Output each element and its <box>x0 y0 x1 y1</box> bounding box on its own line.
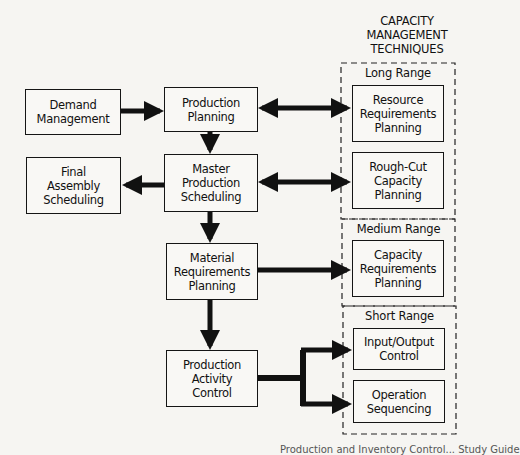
box-final-assembly-scheduling: Final Assembly Scheduling <box>26 157 121 214</box>
capacity-techniques-heading: CAPACITY MANAGEMENT TECHNIQUES <box>340 14 474 56</box>
box-label: Rough-Cut Capacity Planning <box>369 160 427 202</box>
label-short-range: Short Range <box>343 309 456 323</box>
box-production-planning: Production Planning <box>164 87 258 132</box>
box-production-activity-control: Production Activity Control <box>166 350 258 407</box>
box-resource-requirements-planning: Resource Requirements Planning <box>352 85 444 142</box>
box-operation-sequencing: Operation Sequencing <box>353 380 445 423</box>
box-label: Material Requirements Planning <box>174 251 250 293</box>
box-label: Production Activity Control <box>183 358 241 400</box>
label-long-range: Long Range <box>341 66 455 80</box>
box-label: Input/Output Control <box>364 335 434 363</box>
box-demand-management: Demand Management <box>25 89 121 135</box>
figure-caption-clipped: Production and Inventory Control... Stud… <box>280 444 480 455</box>
box-label: Capacity Requirements Planning <box>360 248 436 290</box>
box-label: Demand Management <box>37 98 110 126</box>
box-label: Operation Sequencing <box>367 388 431 416</box>
box-label: Production Planning <box>182 96 240 124</box>
box-master-production-scheduling: Master Production Scheduling <box>164 154 258 212</box>
box-label: Final Assembly Scheduling <box>43 165 104 207</box>
box-label: Resource Requirements Planning <box>360 93 436 135</box>
box-rough-cut-capacity-planning: Rough-Cut Capacity Planning <box>352 152 444 209</box>
label-medium-range: Medium Range <box>342 222 455 236</box>
box-label: Master Production Scheduling <box>181 162 242 204</box>
box-input-output-control: Input/Output Control <box>353 328 445 370</box>
box-material-requirements-planning: Material Requirements Planning <box>166 243 258 300</box>
box-capacity-requirements-planning: Capacity Requirements Planning <box>352 240 444 297</box>
